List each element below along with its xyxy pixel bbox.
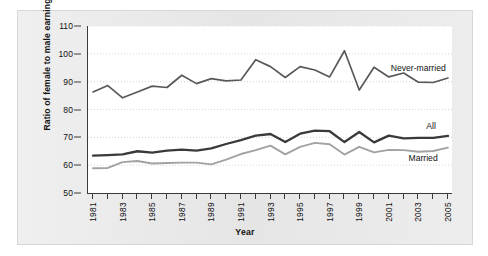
chart-figure: Ratio of female to male earnings 5060708… [17, 10, 473, 245]
x-tick-mark [210, 194, 211, 199]
series-label-married: Married [409, 153, 438, 163]
x-tick-label: 1991 [236, 202, 246, 222]
series-line-never-married [93, 51, 448, 98]
x-tick-mark [299, 194, 300, 199]
x-tick-label: 2003 [413, 202, 423, 222]
series-label-all: All [426, 121, 436, 131]
y-tick-mark [74, 53, 81, 54]
x-tick-label: 1989 [206, 202, 216, 222]
x-tick-mark [403, 194, 404, 199]
x-tick-mark [240, 194, 241, 199]
x-tick-mark [388, 194, 389, 199]
series-label-never-married: Never-married [391, 63, 446, 73]
y-tick-label: 110 [59, 21, 73, 31]
x-tick-mark [196, 194, 197, 199]
x-tick-mark [343, 194, 344, 199]
x-tick-mark [314, 194, 315, 199]
x-tick-mark [122, 194, 123, 199]
x-tick-mark [432, 194, 433, 199]
x-tick-label: 1985 [147, 202, 157, 222]
series-line-married [93, 143, 448, 168]
x-axis-title: Year [18, 227, 472, 237]
y-tick-mark [74, 109, 81, 110]
y-tick-mark [74, 165, 81, 166]
x-tick-label: 1987 [177, 202, 187, 222]
x-tick-mark [166, 194, 167, 199]
x-tick-label: 1999 [354, 202, 364, 222]
y-tick-mark [74, 137, 81, 138]
y-tick-label: 50 [63, 188, 73, 198]
plot-area [87, 26, 452, 193]
x-tick-label: 2001 [384, 202, 394, 222]
y-tick-mark [74, 81, 81, 82]
x-tick-mark [107, 194, 108, 199]
y-tick-mark [74, 26, 81, 27]
y-tick-label: 70 [63, 132, 73, 142]
x-tick-mark [255, 194, 256, 199]
x-tick-mark [151, 194, 152, 199]
x-tick-mark [136, 194, 137, 199]
y-tick-label: 60 [63, 160, 73, 170]
x-tick-label: 1983 [118, 202, 128, 222]
x-tick-mark [358, 194, 359, 199]
x-tick-label: 2005 [443, 202, 453, 222]
x-tick-mark [284, 194, 285, 199]
x-tick-mark [417, 194, 418, 199]
x-tick-label: 1997 [325, 202, 335, 222]
series-line-all [93, 131, 448, 156]
x-tick-label: 1981 [88, 202, 98, 222]
x-tick-label: 1995 [295, 202, 305, 222]
y-tick-label: 80 [63, 105, 73, 115]
chart-svg [88, 26, 453, 193]
x-tick-mark [329, 194, 330, 199]
x-tick-mark [373, 194, 374, 199]
y-axis: 5060708090100110 [18, 11, 87, 193]
x-tick-mark [447, 194, 448, 199]
x-tick-mark [225, 194, 226, 199]
x-tick-mark [270, 194, 271, 199]
y-tick-mark [74, 193, 81, 194]
x-tick-mark [181, 194, 182, 199]
gridlines [88, 26, 453, 165]
y-tick-label: 90 [63, 77, 73, 87]
x-axis [87, 193, 452, 196]
x-tick-mark [92, 194, 93, 199]
x-tick-label: 1993 [266, 202, 276, 222]
y-tick-label: 100 [59, 49, 73, 59]
